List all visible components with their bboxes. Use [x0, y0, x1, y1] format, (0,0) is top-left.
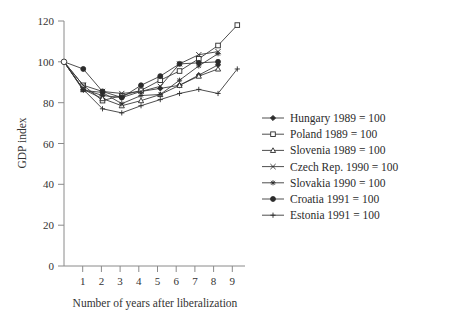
x-tick-label: 4	[136, 275, 142, 287]
data-point-filled-circle	[158, 74, 163, 79]
data-point-plus	[119, 110, 124, 115]
y-tick-label: 120	[38, 15, 55, 27]
legend-item-label: Poland 1989 = 100	[290, 128, 378, 140]
data-point-open-square	[235, 23, 240, 28]
data-point-plus	[270, 213, 275, 218]
y-tick-label: 60	[43, 138, 55, 150]
data-point-filled-circle	[119, 95, 124, 100]
data-point-star	[215, 51, 220, 56]
data-point-plus	[138, 103, 143, 108]
x-tick-marks	[83, 266, 233, 272]
data-point-open-square	[216, 43, 221, 48]
data-point-filled-diamond	[270, 115, 275, 120]
data-point-filled-circle	[177, 61, 182, 66]
x-tick-label: 8	[211, 275, 217, 287]
y-axis-title: GDP index	[16, 117, 28, 168]
data-point-plus	[177, 91, 182, 96]
y-tick-label: 0	[49, 260, 55, 272]
data-point-star	[138, 93, 143, 98]
x-axis-title: Number of years after liberalization	[73, 297, 238, 310]
data-point-filled-circle	[139, 83, 144, 88]
data-point-filled-circle	[271, 197, 276, 202]
y-tick-labels: 120 100 80 60 40 20 0	[38, 15, 55, 272]
data-point-plus	[196, 87, 201, 92]
legend-item-label: Croatia 1991 = 100	[290, 193, 379, 205]
data-point-origin	[61, 59, 67, 65]
legend-item-label: Hungary 1989 = 100	[290, 112, 386, 125]
legend-item-label: Estonia 1991 = 100	[290, 209, 380, 221]
legend-item-label: Slovenia 1989 = 100	[290, 144, 386, 156]
data-point-open-triangle	[215, 66, 220, 71]
data-point-star	[158, 92, 163, 97]
data-point-filled-circle	[100, 89, 105, 94]
y-tick-label: 100	[38, 56, 55, 68]
y-tick-label: 80	[43, 97, 55, 109]
x-tick-label: 6	[173, 275, 179, 287]
legend-item-label: Czech Rep. 1990 = 100	[290, 161, 399, 174]
data-point-star	[119, 101, 124, 106]
data-point-open-square	[271, 132, 276, 137]
axes: 120 100 80 60 40 20 0 1	[16, 15, 245, 310]
x-tick-label: 9	[230, 275, 236, 287]
y-tick-label: 20	[43, 219, 55, 231]
plot-series-layer	[61, 23, 240, 116]
data-point-filled-circle	[216, 59, 221, 64]
y-tick-label: 40	[43, 178, 55, 190]
x-tick-label: 1	[80, 275, 86, 287]
chart-figure: 120 100 80 60 40 20 0 1	[0, 0, 470, 319]
data-point-star	[177, 78, 182, 83]
x-tick-label: 7	[192, 275, 198, 287]
data-point-plus	[158, 97, 163, 102]
chart-legend: Hungary 1989 = 100Poland 1989 = 100Slove…	[262, 112, 399, 221]
data-point-star	[270, 180, 275, 185]
data-point-open-square	[177, 69, 182, 74]
chart-canvas: 120 100 80 60 40 20 0 1	[0, 0, 470, 319]
x-tick-label: 3	[117, 275, 123, 287]
data-point-filled-circle	[196, 60, 201, 65]
y-tick-marks	[58, 21, 64, 266]
data-point-filled-circle	[81, 67, 86, 72]
legend-item-label: Slovakia 1990 = 100	[290, 177, 386, 189]
x-tick-label: 5	[155, 275, 161, 287]
x-tick-label: 2	[99, 275, 105, 287]
x-tick-labels: 1 2 3 4 5 6 7 8 9	[80, 275, 236, 287]
